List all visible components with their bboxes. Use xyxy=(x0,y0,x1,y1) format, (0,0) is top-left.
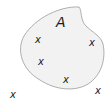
point-marker: x xyxy=(37,56,44,67)
point-marker-outside: x xyxy=(9,89,16,100)
set-diagram: A x x x x x x xyxy=(0,0,112,108)
point-marker: x xyxy=(88,37,95,48)
point-marker: x xyxy=(62,74,69,85)
point-marker: x xyxy=(34,34,41,45)
set-label: A xyxy=(55,14,66,30)
point-marker-outside: x xyxy=(94,85,101,96)
